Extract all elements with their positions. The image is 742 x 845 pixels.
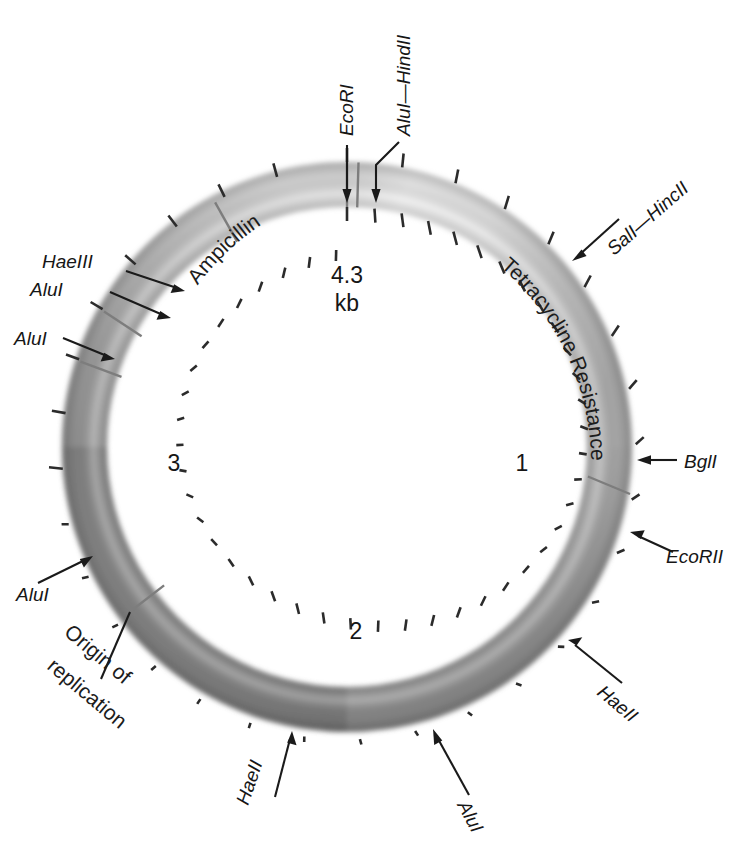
- site-alui-bottom: AluI: [433, 729, 488, 836]
- scale-label-1: 1: [516, 450, 529, 476]
- site-haeii-right-label: HaeII: [593, 681, 642, 727]
- site-haeii-bottom: HaeII: [232, 731, 297, 807]
- site-bgli: BglI: [637, 451, 717, 472]
- plasmid-size-unit: kb: [335, 290, 359, 316]
- scale-label-3: 3: [168, 450, 181, 476]
- site-alui-left-lower-label: AluI: [15, 584, 49, 605]
- site-haeiii-left-label: HaeIII: [42, 251, 93, 272]
- site-haeii-right: HaeII: [568, 637, 642, 726]
- site-ecorii: EcoRII: [630, 530, 724, 567]
- site-alui-bottom-label: AluI: [453, 796, 488, 836]
- plasmid-map-figure: Ampicillin Resistance Tetracycline Resis…: [0, 0, 742, 845]
- site-sali-hincii: SalI—HincII: [572, 177, 693, 261]
- site-alui-left-mid-label: AluI: [13, 328, 47, 349]
- site-haeii-bottom-label: HaeII: [232, 757, 267, 807]
- site-alui-left-lower: AluI: [15, 556, 93, 605]
- plasmid-diagram: Ampicillin Resistance Tetracycline Resis…: [0, 0, 742, 845]
- site-alui-left-upper-label: AluI: [29, 279, 63, 300]
- site-ecorii-label: EcoRII: [666, 546, 724, 567]
- plasmid-size-value: 4.3: [331, 262, 363, 288]
- site-ecori-label: EcoRI: [336, 84, 357, 136]
- scale-label-2: 2: [350, 618, 363, 644]
- site-alui-hindii-label: AluI—HindII: [393, 34, 414, 137]
- scale-ticks: [49, 148, 644, 745]
- site-sali-hincii-label: SalI—HincII: [603, 177, 693, 259]
- site-bgli-label: BglI: [684, 451, 717, 472]
- origin-of-replication: Origin of replication: [43, 612, 136, 733]
